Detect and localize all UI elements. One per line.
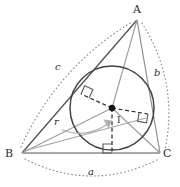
side-arc-b xyxy=(142,23,169,150)
incenter-label: I xyxy=(117,116,121,125)
radius-leader-line xyxy=(24,118,146,151)
radius-arrow-group xyxy=(62,120,112,134)
right-angle-mark-ab xyxy=(81,86,93,98)
side-label-b: b xyxy=(154,68,160,78)
side-label-c: c xyxy=(55,62,61,72)
angle-bisector-a xyxy=(112,20,137,108)
vertex-label-b: B xyxy=(5,148,13,159)
incircle-diagram: A B C a b c r I xyxy=(0,0,180,187)
incenter-point xyxy=(109,105,115,111)
vertex-label-a: A xyxy=(133,4,141,15)
radius-arrow-curve xyxy=(62,124,108,133)
radius-label: r xyxy=(54,117,59,127)
right-angle-mark-bc xyxy=(103,144,112,153)
vertex-label-c: C xyxy=(163,148,171,159)
side-label-a: a xyxy=(88,167,94,177)
right-angle-marks xyxy=(81,86,148,153)
radius-to-ab-tangent xyxy=(81,94,112,108)
geometry-canvas xyxy=(0,0,180,187)
